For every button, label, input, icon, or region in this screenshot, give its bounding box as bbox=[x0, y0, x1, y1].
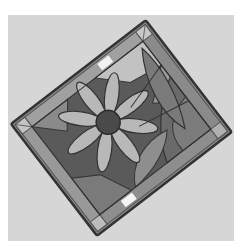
stained-glass-panel bbox=[11, 20, 232, 235]
stained-glass-scene bbox=[0, 0, 243, 249]
